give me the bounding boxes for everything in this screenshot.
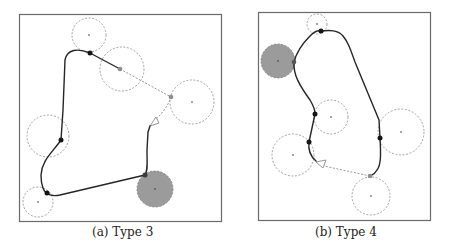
figure-canvas: [0, 0, 449, 249]
waypoint-black: [45, 191, 50, 196]
panel-a: [20, 15, 222, 222]
waypoint-black: [307, 140, 312, 145]
panel-b: [259, 13, 431, 221]
panel-b-frame: [259, 13, 431, 221]
circle-center-dot: [191, 101, 193, 103]
waypoint-gray: [118, 67, 123, 72]
waypoint-black: [319, 29, 324, 34]
circle-center-dot: [316, 23, 318, 25]
waypoint-gray: [292, 60, 297, 65]
circle-center-dot: [277, 60, 279, 62]
circle-center-dot: [330, 116, 332, 118]
waypoint-gray: [368, 174, 373, 179]
panel-a-frame: [20, 15, 222, 222]
circle-center-dot: [154, 188, 156, 190]
circle-center-dot: [37, 201, 39, 203]
panel-a-caption: (a) Type 3: [92, 225, 153, 239]
circle-center-dot: [400, 131, 402, 133]
circle-center-dot: [292, 154, 294, 156]
waypoint-gray: [169, 95, 174, 100]
waypoint-black: [143, 173, 148, 178]
circle-center-dot: [88, 34, 90, 36]
panel-b-caption: (b) Type 4: [315, 225, 377, 239]
waypoint-black: [59, 138, 64, 143]
waypoint-black: [313, 112, 318, 117]
waypoint-black: [378, 136, 383, 141]
waypoint-black: [88, 51, 93, 56]
circle-center-dot: [370, 195, 372, 197]
